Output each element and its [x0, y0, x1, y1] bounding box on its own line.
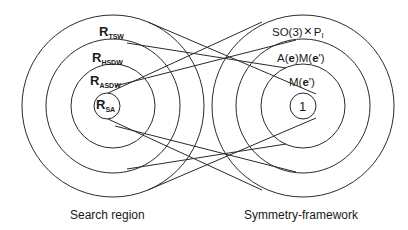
caption-search-region: Search region: [70, 208, 145, 222]
link-tsw-one-bottom: [148, 118, 316, 190]
link-sa-so3-top: [108, 22, 262, 93]
diagram-canvas: RTSW RHSDW RASDW RSA SO(3)×PI A(e)M(e') …: [0, 0, 408, 230]
label-r-sa: RSA: [96, 97, 115, 113]
label-one: 1: [299, 99, 306, 114]
link-sa-so3-bottom: [108, 119, 262, 190]
label-r-hsdw: RHSDW: [92, 50, 123, 66]
caption-symmetry-framework: Symmetry-framework: [244, 208, 359, 222]
label-me: M(e'): [289, 76, 315, 88]
label-aem: A(e)M(e'): [277, 52, 325, 64]
label-so3-pi: SO(3)×PI: [272, 23, 324, 40]
label-r-tsw: RTSW: [99, 24, 124, 40]
label-r-asdw: RASDW: [90, 73, 121, 89]
